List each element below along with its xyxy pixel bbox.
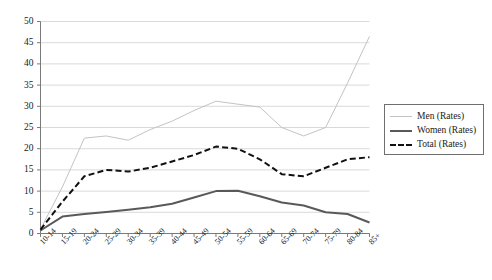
legend-item-label: Men (Rates)	[417, 111, 464, 121]
total-line-swatch	[390, 139, 412, 149]
legend-item[interactable]: Men (Rates)	[385, 109, 483, 123]
series-line-total-rates	[41, 147, 370, 230]
gridlines	[41, 22, 370, 213]
series-line-women-rates	[41, 191, 370, 231]
legend-item-label: Women (Rates)	[417, 125, 476, 135]
series-line-men-rates	[41, 36, 370, 229]
legend-item[interactable]: Women (Rates)	[385, 123, 483, 137]
y-axis-ticks	[37, 22, 41, 234]
men-line-swatch	[390, 111, 412, 121]
line-chart: 50454035302520151050 10-1415-1920-2425-2…	[0, 0, 492, 280]
legend-item-label: Total (Rates)	[417, 139, 466, 149]
data-series	[41, 36, 370, 230]
legend-item[interactable]: Total (Rates)	[385, 137, 483, 151]
women-line-swatch	[390, 125, 412, 135]
chart-legend: Men (Rates)Women (Rates)Total (Rates)	[384, 104, 484, 155]
